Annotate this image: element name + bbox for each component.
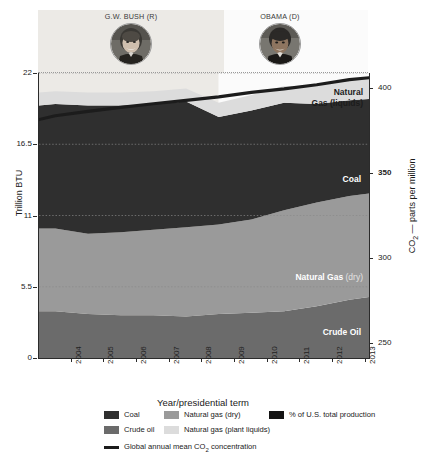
x-tickmark-2006 (136, 358, 137, 362)
x-tick-2011: 2011 (302, 347, 311, 364)
x-tickmark-2008 (201, 358, 202, 362)
x-tick-2006: 2006 (139, 346, 148, 364)
tickmark-right-300 (369, 258, 373, 259)
x-tickmark-2010 (267, 358, 268, 362)
tickmark-left-11 (33, 216, 37, 217)
obama-portrait-icon (259, 23, 301, 65)
x-tick-2005: 2005 (106, 346, 115, 364)
tickmark-right-250 (369, 343, 373, 344)
legend-item-natural-gas-plant-liquids[interactable]: Natural gas (plant liquids) (164, 425, 270, 434)
annotation-natural-gas-dry: Natural Gas (dry) (295, 272, 363, 282)
ytick-left-16-5: 16.5 (2, 139, 32, 148)
x-tickmark-2012 (332, 358, 333, 362)
legend-label-natural-gas-plant-liquids: Natural gas (plant liquids) (184, 425, 270, 434)
annotation-crude-oil: Crude Oil (323, 327, 361, 337)
legend-swatch-pct-us-total-production (269, 411, 284, 419)
legend-item-co2-line[interactable]: Global annual mean CO2 concentration (104, 442, 257, 453)
tickmark-right-350 (369, 173, 373, 174)
legend-swatch-crude-oil (104, 426, 119, 434)
tickmark-left-0 (33, 358, 37, 359)
ytick-right-300: 300 (378, 253, 408, 262)
tickmark-right-400 (369, 88, 373, 89)
obama-term-label: OBAMA (D) (243, 12, 317, 21)
obama-term-column: OBAMA (D) (243, 10, 317, 73)
x-tick-2007: 2007 (172, 346, 181, 364)
legend-item-pct-us-total-production[interactable]: % of U.S. total production (269, 410, 375, 419)
tickmark-left-22 (33, 73, 37, 74)
x-tickmark-2004 (71, 358, 72, 362)
legend-label-crude-oil: Crude oil (124, 425, 154, 434)
chart-root: G.W. BUSH (R) (0, 0, 423, 466)
x-tickmark-2011 (299, 358, 300, 362)
legend-label-co2-line: Global annual mean CO2 concentration (124, 442, 257, 453)
plot-area: Natural Gas (liquids) Coal Natural Gas (… (38, 73, 370, 359)
ytick-right-400: 400 (378, 83, 408, 92)
legend-label-pct-us-total-production: % of U.S. total production (289, 410, 375, 419)
legend-label-coal: Coal (124, 410, 140, 419)
bush-term-label: G.W. BUSH (R) (94, 12, 168, 21)
x-tick-2012: 2012 (335, 346, 344, 364)
annotation-coal: Coal (343, 174, 361, 184)
legend-item-crude-oil[interactable]: Crude oil (104, 425, 154, 434)
x-tick-2009: 2009 (237, 346, 246, 364)
legend-item-coal[interactable]: Coal (104, 410, 140, 419)
ytick-left-5-5: 5.5 (2, 282, 32, 291)
x-tick-2013: 2013 (368, 346, 377, 364)
y-axis-title-left: Trillion BTU (14, 148, 24, 238)
legend-rule-co2-line (104, 446, 119, 449)
x-tick-2004: 2004 (74, 346, 83, 364)
legend-swatch-natural-gas-plant-liquids (164, 426, 179, 434)
tickmark-left-16-5 (33, 144, 37, 145)
ytick-right-350: 350 (378, 168, 408, 177)
ytick-right-250: 250 (378, 338, 408, 347)
x-tickmark-2009 (234, 358, 235, 362)
x-axis-title: Year/presidential term (38, 397, 368, 408)
x-tick-2010: 2010 (270, 346, 279, 364)
x-tickmark-2007 (169, 358, 170, 362)
x-tick-2008: 2008 (204, 346, 213, 364)
legend-item-natural-gas-dry[interactable]: Natural gas (dry) (164, 410, 241, 419)
presidential-term-band: G.W. BUSH (R) (38, 10, 368, 73)
bush-term-column: G.W. BUSH (R) (94, 10, 168, 73)
annotation-natural-gas-liquids: Natural Gas (liquids) (312, 87, 363, 109)
bush-portrait-icon (110, 23, 152, 65)
ytick-left-0: 0 (2, 353, 32, 362)
tickmark-left-5-5 (33, 287, 37, 288)
x-tickmark-2013 (365, 358, 366, 362)
legend-swatch-coal (104, 411, 119, 419)
legend-swatch-natural-gas-dry (164, 411, 179, 419)
ytick-left-22: 22 (2, 68, 32, 77)
x-tickmark-2005 (103, 358, 104, 362)
legend-label-natural-gas-dry: Natural gas (dry) (184, 410, 241, 419)
stacked-area-chart (39, 73, 369, 358)
y-axis-title-right: CO2 — parts per million (407, 151, 419, 261)
